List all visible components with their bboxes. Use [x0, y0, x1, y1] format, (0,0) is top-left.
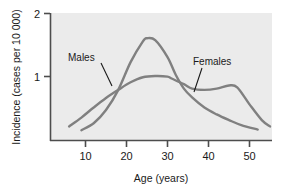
series-label-females: Females [193, 56, 231, 67]
x-tick-label-10: 10 [79, 150, 91, 162]
y-axis-title: Incidence (cases per 10 000) [10, 9, 22, 144]
x-tick-label-50: 50 [243, 150, 255, 162]
x-tick-label-20: 20 [120, 150, 132, 162]
x-tick-label-40: 40 [202, 150, 214, 162]
y-tick-label-2: 2 [34, 8, 40, 20]
chart-svg: 2 1 10 20 30 40 50 Age (years) Incidence… [0, 0, 281, 190]
series-label-males: Males [68, 52, 95, 63]
x-tick-label-30: 30 [161, 150, 173, 162]
y-tick-label-1: 1 [34, 71, 40, 83]
x-axis-title: Age (years) [134, 172, 188, 184]
incidence-by-age-chart: 2 1 10 20 30 40 50 Age (years) Incidence… [0, 0, 281, 190]
